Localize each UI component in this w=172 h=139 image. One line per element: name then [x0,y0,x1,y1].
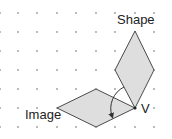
image-rhombus [57,89,135,127]
grid-dot [36,126,38,128]
grid-dot [95,31,97,33]
grid-dot [75,50,77,52]
grid-dot [134,126,136,128]
grid-dot [56,126,58,128]
grid-dot [153,126,155,128]
grid-dot [0,107,1,109]
grid-dot [56,88,58,90]
grid-dot [0,31,1,33]
shape-rhombus [115,31,154,108]
grid-dot [17,107,19,109]
vertex-label: V [141,102,150,115]
grid-dot [153,31,155,33]
grid-dot [36,69,38,71]
grid-dot [75,31,77,33]
grid-dot [36,88,38,90]
grid-dot [75,12,77,14]
grid-dot [114,12,116,14]
image-label: Image [25,108,61,121]
grid-dot [95,50,97,52]
grid-dot [114,126,116,128]
grid-dot [56,31,58,33]
grid-dot [17,126,19,128]
grid-dot [95,69,97,71]
grid-dot [95,12,97,14]
grid-dot [56,12,58,14]
grid-dot [36,12,38,14]
grid-dot [17,31,19,33]
grid-dot [0,12,1,14]
grid-dot [17,50,19,52]
grid-dot [0,50,1,52]
shape-label: Shape [117,13,155,26]
grid-dot [36,31,38,33]
grid-dot [153,107,155,109]
grid-dot [0,126,1,128]
grid-dot [75,88,77,90]
grid-dot [75,126,77,128]
grid-dot [36,50,38,52]
grid-dot [0,88,1,90]
center-vertex-point [133,106,136,109]
grid-dot [17,12,19,14]
grid-dot [153,88,155,90]
grid-dot [114,50,116,52]
rotation-diagram: Shape Image V [0,0,172,139]
grid-dot [56,69,58,71]
grid-dot [153,50,155,52]
grid-dot [17,69,19,71]
grid-dot [56,50,58,52]
grid-dot [114,88,116,90]
grid-dot [17,88,19,90]
grid-dot [75,69,77,71]
grid-dot [114,31,116,33]
grid-dot [0,69,1,71]
